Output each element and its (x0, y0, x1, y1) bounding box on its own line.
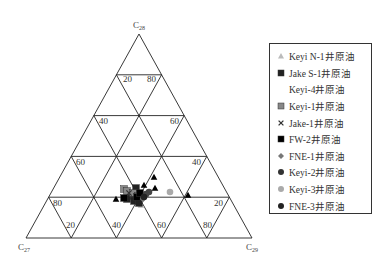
tick-label: 20 (123, 74, 133, 84)
axis-label-top: C28 (133, 20, 145, 31)
tick-label: 60 (76, 157, 86, 167)
legend-item: Jake S-1井原油 (276, 65, 371, 82)
square-marker (121, 195, 128, 202)
legend-item: Keyi N-1井原油 (276, 48, 371, 65)
legend-item: Keyi-2井原油 (276, 164, 371, 181)
legend-item: Keyi-1井原油 (276, 98, 371, 115)
tick-label: 40 (99, 116, 109, 126)
tick-labels: 208040606040802020406080 (53, 74, 224, 230)
circle-icon (276, 184, 286, 194)
legend-label: Jake S-1井原油 (289, 66, 351, 80)
legend-label: Keyi-2井原油 (289, 165, 345, 179)
legend-label: Keyi-1井原油 (289, 99, 345, 113)
cross-icon (276, 118, 286, 128)
square-icon (276, 68, 286, 78)
circle-icon (276, 167, 286, 177)
diamond-icon (276, 151, 286, 161)
square-icon (276, 101, 286, 111)
tick-label: 40 (192, 157, 202, 167)
legend-item: FNE-3井原油 (276, 197, 371, 214)
tick-label: 40 (112, 220, 122, 230)
axis-label-right: C29 (246, 242, 258, 253)
legend-label: FNE-3井原油 (289, 199, 345, 213)
tick-label: 80 (147, 74, 157, 84)
legend-label: Jake-1井原油 (289, 116, 344, 130)
square-icon (276, 134, 286, 144)
circle-icon (276, 201, 286, 211)
tick-label: 80 (53, 198, 63, 208)
tick-label: 20 (214, 198, 224, 208)
tick-label: 60 (170, 116, 180, 126)
ternary-chart: 208040606040802020406080 C28 C27 C29 (0, 0, 270, 266)
legend-label: Keyi-3井原油 (289, 182, 345, 196)
legend-item: Keyi-3井原油 (276, 181, 371, 198)
legend-item: Jake-1井原油 (276, 114, 371, 131)
legend-label: Keyi-4井原油 (289, 82, 345, 96)
tick-label: 20 (66, 220, 76, 230)
legend-label: FW-2井原油 (289, 132, 341, 146)
axis-labels: C28 C27 C29 (18, 20, 258, 253)
axis-label-left: C27 (18, 242, 30, 253)
none-icon (276, 84, 286, 94)
legend-label: Keyi N-1井原油 (289, 49, 355, 63)
tick-label: 60 (157, 220, 167, 230)
legend-item: Keyi-4井原油 (276, 81, 371, 98)
legend: Keyi N-1井原油Jake S-1井原油Keyi-4井原油Keyi-1井原油… (269, 43, 372, 214)
legend-label: FNE-1井原油 (289, 149, 345, 163)
legend-item: FNE-1井原油 (276, 148, 371, 165)
tick-label: 80 (203, 220, 213, 230)
triangle-marker (113, 196, 120, 202)
triangle-marker (152, 185, 159, 191)
triangle-icon (276, 51, 286, 61)
data-points (113, 174, 192, 208)
circle-marker (141, 194, 148, 201)
legend-item: FW-2井原油 (276, 131, 371, 148)
circle-marker (167, 189, 174, 196)
square-marker (136, 200, 143, 207)
